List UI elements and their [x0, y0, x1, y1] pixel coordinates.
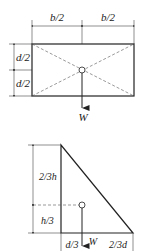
triangle-section	[61, 145, 133, 233]
triangle-figure: 2/3h h/3 d/3 W 2/3d	[28, 145, 133, 251]
load-label: W	[78, 111, 88, 123]
centroid-marker	[79, 202, 85, 208]
load-diagram: b/2 b/2 d/2 d/2 W 2/3h h/3	[0, 0, 142, 251]
centroid-marker	[79, 67, 85, 73]
base-label-left: d/3	[66, 239, 79, 250]
width-label-left: b/2	[50, 11, 65, 23]
width-label-right: b/2	[101, 11, 116, 23]
height-label-upper: 2/3h	[39, 171, 57, 182]
load-label: W	[89, 236, 99, 247]
height-dimension: d/2 d/2	[9, 44, 32, 96]
height-label-top: d/2	[16, 51, 31, 63]
rectangle-figure: b/2 b/2 d/2 d/2 W	[9, 11, 134, 123]
base-label-right: 2/3d	[109, 239, 128, 250]
triangle-height-dimension: 2/3h h/3	[28, 145, 61, 233]
height-label-lower: h/3	[41, 215, 54, 226]
width-dimension: b/2 b/2	[32, 11, 134, 44]
height-label-bottom: d/2	[16, 77, 31, 89]
